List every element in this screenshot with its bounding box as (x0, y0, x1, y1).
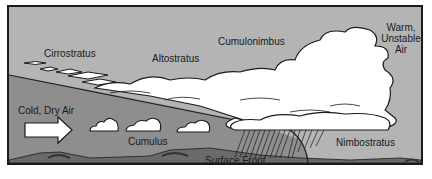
cirrostratus-wisp-1 (24, 62, 46, 65)
label-cold-dry-air: Cold, Dry Air (18, 105, 74, 116)
label-surface-front: Surface Front (205, 155, 266, 166)
label-altostratus: Altostratus (152, 53, 199, 64)
label-nimbostratus: Nimbostratus (336, 137, 395, 148)
weather-front-diagram (0, 0, 432, 179)
label-cumulonimbus: Cumulonimbus (218, 36, 285, 47)
label-warm-air: Warm, Unstable Air (376, 22, 426, 55)
label-warm-air-line2: Unstable (376, 33, 426, 44)
label-warm-air-line1: Warm, (376, 22, 426, 33)
label-cumulus: Cumulus (128, 136, 167, 147)
label-cirrostratus: Cirrostratus (44, 48, 96, 59)
label-warm-air-line3: Air (376, 44, 426, 55)
